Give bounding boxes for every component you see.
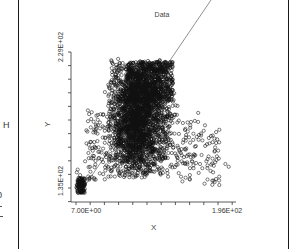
y-axis-ticks bbox=[68, 52, 71, 202]
data-points bbox=[75, 57, 230, 194]
x-axis-ticks bbox=[76, 202, 232, 205]
scatter-plot-area bbox=[0, 0, 291, 249]
